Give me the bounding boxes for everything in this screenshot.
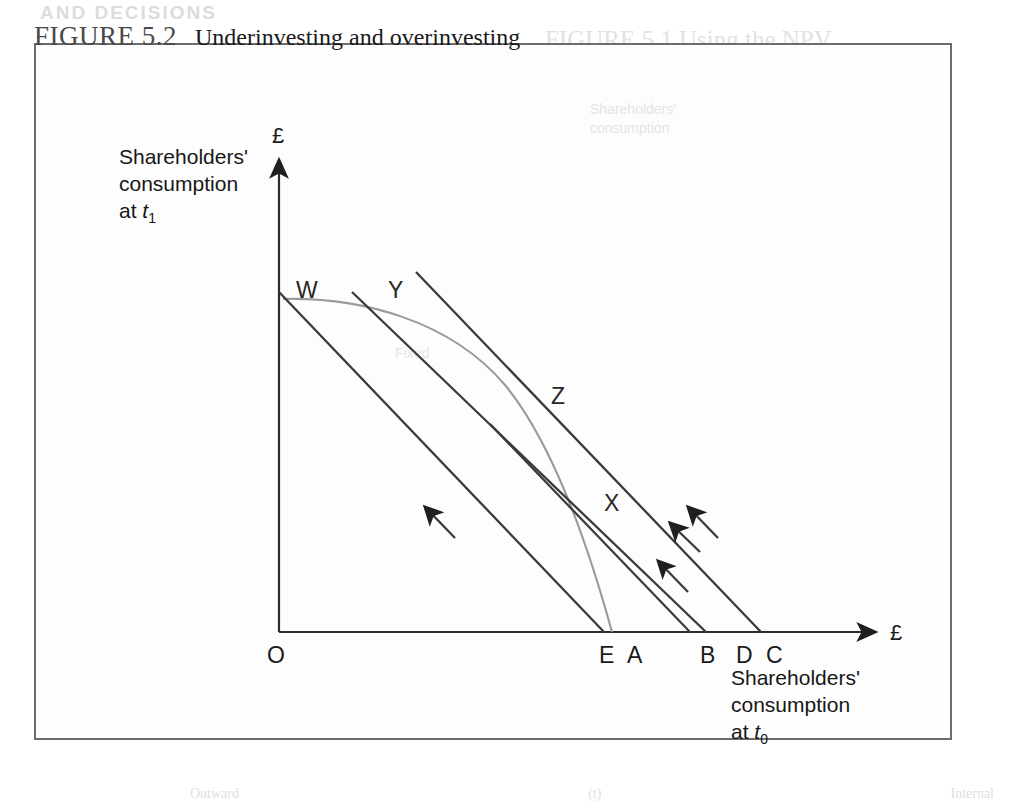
point-label-Z: Z	[551, 383, 565, 409]
y-axis-currency-label: £	[272, 123, 284, 148]
axis-label-C: C	[766, 642, 783, 668]
axis-label-O: O	[267, 642, 285, 668]
point-label-W: W	[296, 277, 318, 303]
tangent-line-Z-C	[416, 272, 761, 632]
axis-label-B: B	[700, 642, 715, 668]
budget-line-W-E	[279, 292, 604, 632]
figure-plot: £ £ W Y Z X O E A B D C	[0, 0, 1034, 806]
point-label-Y: Y	[388, 277, 403, 303]
arrow-on-budget-line-W-E	[426, 508, 455, 538]
page-bleed-bottom-left: Outward	[190, 786, 239, 802]
axis-label-D: D	[736, 642, 753, 668]
arrow-on-tangent-line-Z-C	[689, 508, 718, 538]
axis-label-A: A	[627, 642, 643, 668]
arrow-on-budget-line-Y-B	[671, 524, 700, 552]
page-bleed-bottom-text: Outward (t) Internal	[190, 786, 994, 802]
page-bleed-bottom-mid: (t)	[588, 786, 601, 802]
axis-label-E: E	[599, 642, 614, 668]
budget-line-Y-B	[352, 292, 706, 632]
arrow-on-budget-line-X-D	[659, 562, 688, 592]
point-label-X: X	[604, 490, 619, 516]
page-bleed-bottom-right: Internal	[950, 786, 994, 802]
x-axis-currency-label: £	[890, 620, 902, 645]
